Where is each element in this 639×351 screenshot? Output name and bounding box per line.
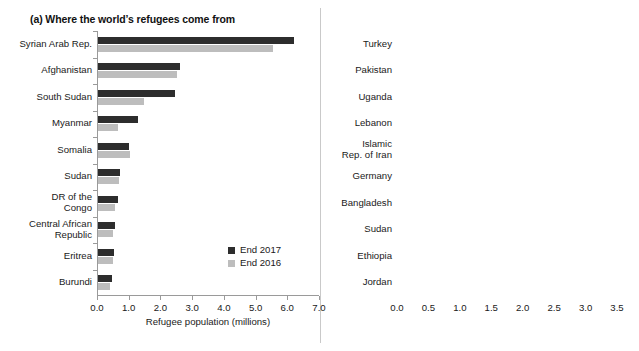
x-axis-tick <box>256 296 257 300</box>
y-axis-category-label: Central African Republic <box>2 218 92 240</box>
y-axis-category-label: Sudan <box>306 223 392 234</box>
y-axis-tick <box>93 58 97 59</box>
bar-group <box>97 63 319 78</box>
y-axis-tick <box>93 137 97 138</box>
plot-area-a <box>97 31 319 296</box>
x-axis-tick-label: 3.0 <box>573 302 599 313</box>
bar-group <box>97 275 319 290</box>
bar-group <box>97 116 319 131</box>
x-axis-tick <box>224 296 225 300</box>
bar-2017 <box>98 37 294 44</box>
y-axis-category-label: Somalia <box>2 144 92 155</box>
bar-2017 <box>98 169 120 176</box>
bar-2016 <box>98 98 144 105</box>
y-axis-tick <box>93 164 97 165</box>
x-axis-tick-label: 2.0 <box>510 302 536 313</box>
bar-group <box>97 90 319 105</box>
bar-group <box>97 143 319 158</box>
bar-2017 <box>98 275 112 282</box>
x-axis-tick <box>129 296 130 300</box>
y-axis-category-label: Afghanistan <box>2 64 92 75</box>
legend-item-2017: End 2017 <box>228 245 281 255</box>
y-axis-category-label: Sudan <box>2 170 92 181</box>
bar-2017 <box>98 90 175 97</box>
y-axis-tick <box>93 31 97 32</box>
bar-group <box>97 169 319 184</box>
legend-a: End 2017 End 2016 <box>228 245 281 271</box>
x-axis-tick <box>287 296 288 300</box>
x-axis-tick-label: 3.5 <box>604 302 630 313</box>
bar-2016 <box>98 151 130 158</box>
y-axis-category-label: Germany <box>306 170 392 181</box>
x-axis-title-a: Refugee population (millions) <box>97 316 319 327</box>
bar-2017 <box>98 63 180 70</box>
legend-label-2017: End 2017 <box>240 245 281 255</box>
y-axis-tick <box>93 243 97 244</box>
x-axis-tick-label: 1.0 <box>116 302 142 313</box>
y-axis-category-label: Uganda <box>306 91 392 102</box>
y-axis-category-label: Jordan <box>306 276 392 287</box>
y-axis-tick <box>93 111 97 112</box>
bar-group <box>97 37 319 52</box>
y-axis-tick <box>93 270 97 271</box>
x-axis-tick-label: 5.0 <box>243 302 269 313</box>
y-axis-category-label: Eritrea <box>2 250 92 261</box>
bar-2017 <box>98 249 114 256</box>
legend-item-2016: End 2016 <box>228 258 281 268</box>
bar-group <box>97 222 319 237</box>
x-axis-tick-label: 1.5 <box>478 302 504 313</box>
x-axis-tick-label: 6.0 <box>274 302 300 313</box>
bar-2016 <box>98 71 177 78</box>
bar-2017 <box>98 143 129 150</box>
legend-swatch-2016-icon <box>228 260 235 267</box>
x-axis-tick-label: 3.0 <box>179 302 205 313</box>
x-axis-tick-label: 0.0 <box>384 302 410 313</box>
bar-2016 <box>98 283 110 290</box>
y-axis-category-label: Bangladesh <box>306 197 392 208</box>
y-axis-category-label: Lebanon <box>306 117 392 128</box>
panel-a-title: (a) Where the world’s refugees come from <box>30 13 235 25</box>
y-axis-category-label: Pakistan <box>306 64 392 75</box>
bar-group <box>97 196 319 211</box>
x-axis-tick-label: 1.0 <box>447 302 473 313</box>
y-axis-tick <box>93 84 97 85</box>
y-axis-category-label: Myanmar <box>2 117 92 128</box>
x-axis-tick-label: 7.0 <box>306 302 332 313</box>
bar-2016 <box>98 257 113 264</box>
y-axis-tick <box>93 217 97 218</box>
y-axis-category-label: Burundi <box>2 276 92 287</box>
x-axis-tick-label: 4.0 <box>211 302 237 313</box>
y-axis-category-label: Islamic Rep. of Iran <box>306 138 392 160</box>
bar-2017 <box>98 116 138 123</box>
y-axis-category-label: DR of the Congo <box>2 191 92 213</box>
bar-2017 <box>98 222 115 229</box>
x-axis-tick <box>160 296 161 300</box>
x-axis-tick-label: 0.5 <box>415 302 441 313</box>
x-axis-tick <box>192 296 193 300</box>
y-axis-category-label: Syrian Arab Rep. <box>2 38 92 49</box>
bar-2016 <box>98 230 113 237</box>
y-axis-tick <box>93 190 97 191</box>
bar-2016 <box>98 177 119 184</box>
bar-2017 <box>98 196 118 203</box>
bar-group <box>97 249 319 264</box>
bar-2016 <box>98 124 118 131</box>
x-axis-tick-label: 2.5 <box>541 302 567 313</box>
y-axis-category-label: South Sudan <box>2 91 92 102</box>
bar-2016 <box>98 204 115 211</box>
x-axis-tick-label: 0.0 <box>84 302 110 313</box>
legend-label-2016: End 2016 <box>240 258 281 268</box>
y-axis-category-label: Ethiopia <box>306 250 392 261</box>
legend-swatch-2017-icon <box>228 247 235 254</box>
x-axis-tick <box>97 296 98 300</box>
x-axis-line-a <box>97 295 319 296</box>
x-axis-tick-label: 2.0 <box>147 302 173 313</box>
y-axis-category-label: Turkey <box>306 38 392 49</box>
bar-2016 <box>98 45 273 52</box>
